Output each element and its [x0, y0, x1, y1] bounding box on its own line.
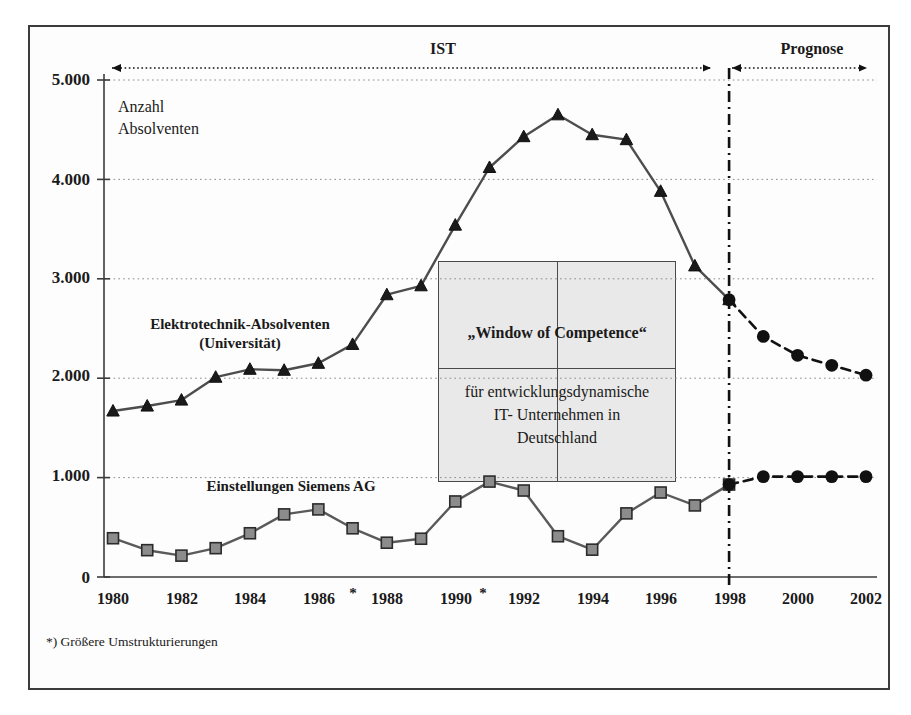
phase-label-prognose: Prognose: [781, 40, 844, 58]
footnote: *) Größere Umstrukturierungen: [46, 634, 218, 649]
x-tick-1992: 1992: [508, 590, 540, 608]
y-tick-3000: 3.000: [22, 268, 90, 287]
window-of-competence-box: „Window of Competence“ für entwicklungsd…: [438, 261, 676, 482]
y-axis-title-line-2: Absolventen: [118, 118, 199, 140]
x-star-mark-1991: *: [479, 585, 487, 602]
series-label-einstellungen: Einstellungen Siemens AG: [206, 477, 375, 496]
x-tick-1996: 1996: [645, 590, 677, 608]
box-subtitle: für entwicklungsdynamische IT- Unternehm…: [439, 380, 675, 450]
y-tick-1000: 1.000: [22, 466, 90, 485]
x-tick-1990: 1990: [440, 590, 472, 608]
x-tick-2000: 2000: [782, 590, 814, 608]
x-tick-1982: 1982: [166, 590, 198, 608]
series-label-absolventen-line-1: Elektrotechnik-Absolventen: [150, 315, 330, 334]
y-tick-5000: 5.000: [22, 70, 90, 89]
box-subtitle-line-2: IT- Unternehmen in: [439, 403, 675, 426]
y-axis-title-line-1: Anzahl: [118, 96, 199, 118]
x-tick-1980: 1980: [97, 590, 129, 608]
x-star-mark-1987: *: [349, 585, 357, 602]
x-tick-1988: 1988: [371, 590, 403, 608]
series-label-absolventen: Elektrotechnik-Absolventen (Universität): [150, 315, 330, 353]
x-tick-1998: 1998: [714, 590, 746, 608]
y-tick-2000: 2.000: [22, 366, 90, 385]
y-axis-title: Anzahl Absolventen: [118, 96, 199, 139]
y-tick-4000: 4.000: [22, 170, 90, 189]
x-tick-1994: 1994: [577, 590, 609, 608]
box-subtitle-line-1: für entwicklungsdynamische: [439, 380, 675, 403]
x-tick-1984: 1984: [234, 590, 266, 608]
x-tick-1986: 1986: [303, 590, 335, 608]
x-tick-2002: 2002: [850, 590, 882, 608]
box-horizontal-divider: [439, 368, 675, 369]
box-title: „Window of Competence“: [439, 324, 675, 342]
y-tick-0: 0: [22, 568, 90, 587]
series-label-absolventen-line-2: (Universität): [150, 334, 330, 353]
phase-label-ist: IST: [430, 40, 456, 58]
box-subtitle-line-3: Deutschland: [439, 426, 675, 449]
